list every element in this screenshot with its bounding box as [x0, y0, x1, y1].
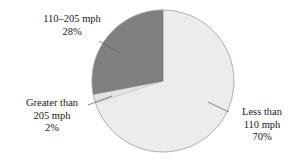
slice-label-greater-than-205: Greater than 205 mph 2%: [6, 97, 98, 135]
slice-label-greater-than-205-value: 2%: [6, 122, 98, 135]
slice-label-less-than-110: Less than 110 mph 70%: [231, 106, 293, 144]
slice-label-110-to-205-value: 28%: [26, 26, 118, 39]
slice-label-110-to-205: 110–205 mph 28%: [26, 13, 118, 38]
slice-label-greater-than-205-category-line2: 205 mph: [6, 110, 98, 123]
slice-label-less-than-110-category-line1: Less than: [231, 106, 293, 119]
slice-label-greater-than-205-category-line1: Greater than: [6, 97, 98, 110]
pie-chart-figure: 110–205 mph 28% Greater than 205 mph 2% …: [0, 0, 295, 159]
slice-label-less-than-110-value: 70%: [231, 131, 293, 144]
slice-label-less-than-110-category-line2: 110 mph: [231, 119, 293, 132]
slice-label-110-to-205-category: 110–205 mph: [26, 13, 118, 26]
